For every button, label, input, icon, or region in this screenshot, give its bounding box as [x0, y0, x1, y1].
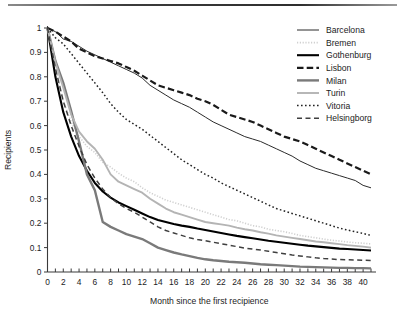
y-tick-label: 0.5 — [30, 145, 42, 155]
x-tick-label: 22 — [216, 277, 226, 287]
legend-label-bremen: Bremen — [326, 38, 356, 48]
x-tick-label: 34 — [311, 277, 321, 287]
legend-label-vitoria: Vitoria — [326, 101, 350, 111]
series-line-barcelona — [48, 28, 372, 188]
series-line-bremen — [48, 28, 372, 244]
x-tick-label: 32 — [295, 277, 305, 287]
x-tick-label: 8 — [108, 277, 113, 287]
series-line-vitoria — [48, 28, 372, 235]
x-tick-label: 14 — [153, 277, 163, 287]
x-axis-title: Month since the first recipience — [150, 296, 269, 306]
x-tick-label: 12 — [138, 277, 148, 287]
x-tick-label: 36 — [327, 277, 337, 287]
y-tick-label: 0.3 — [30, 194, 42, 204]
x-tick-label: 10 — [122, 277, 132, 287]
y-tick-label: 0.7 — [30, 96, 42, 106]
y-tick-label: 0.2 — [30, 218, 42, 228]
x-tick-label: 0 — [45, 277, 50, 287]
y-tick-label: 1 — [37, 23, 42, 33]
x-tick-label: 24 — [232, 277, 242, 287]
x-tick-label: 6 — [93, 277, 98, 287]
series-line-lisbon — [48, 28, 372, 174]
x-tick-label: 30 — [280, 277, 290, 287]
legend-label-lisbon: Lisbon — [326, 63, 352, 73]
figure-root: 00.10.20.30.40.50.60.70.80.9102468101214… — [0, 0, 405, 321]
x-tick-label: 38 — [343, 277, 353, 287]
x-tick-label: 20 — [201, 277, 211, 287]
legend-label-turin: Turin — [326, 88, 345, 98]
survival-curve-chart: 00.10.20.30.40.50.60.70.80.9102468101214… — [0, 0, 405, 321]
y-tick-label: 0.9 — [30, 47, 42, 57]
legend-label-barcelona: Barcelona — [326, 25, 365, 35]
y-axis-title: Recipients — [3, 130, 13, 170]
x-tick-label: 26 — [248, 277, 258, 287]
legend-label-helsingborg: Helsingborg — [326, 113, 372, 123]
y-tick-label: 0.1 — [30, 243, 42, 253]
x-tick-label: 2 — [61, 277, 66, 287]
x-tick-label: 16 — [169, 277, 179, 287]
y-tick-label: 0 — [37, 267, 42, 277]
y-tick-label: 0.6 — [30, 121, 42, 131]
series-line-turin — [48, 28, 372, 248]
x-tick-label: 18 — [185, 277, 195, 287]
y-tick-label: 0.8 — [30, 72, 42, 82]
legend-label-gothenburg: Gothenburg — [326, 50, 372, 60]
series-line-gothenburg — [48, 28, 372, 251]
series-line-milan — [48, 28, 372, 268]
x-tick-label: 28 — [264, 277, 274, 287]
x-tick-label: 4 — [77, 277, 82, 287]
legend-label-milan: Milan — [326, 76, 347, 86]
x-tick-label: 40 — [358, 277, 368, 287]
series-line-helsingborg — [48, 28, 372, 261]
y-tick-label: 0.4 — [30, 169, 42, 179]
